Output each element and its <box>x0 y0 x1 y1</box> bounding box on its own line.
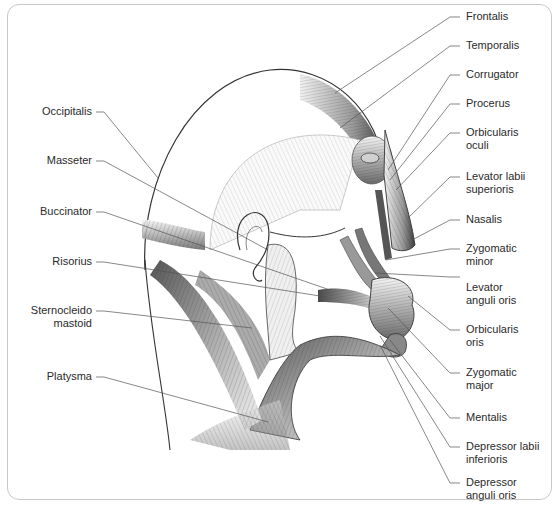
label-levator-labii-superioris: Levator labiisuperioris <box>466 170 525 196</box>
label-depressor-anguli-oris: Depressoranguli oris <box>466 476 517 502</box>
label-occipitalis: Occipitalis <box>42 105 92 118</box>
label-corrugator: Corrugator <box>466 68 519 81</box>
label-mentalis: Mentalis <box>466 411 507 424</box>
label-nasalis: Nasalis <box>466 213 502 226</box>
label-procerus: Procerus <box>466 97 510 110</box>
label-masseter: Masseter <box>47 154 92 167</box>
label-zygomatic-minor: Zygomaticminor <box>466 242 517 268</box>
label-orbicularis-oris: Orbicularisoris <box>466 323 519 349</box>
label-sternocleidomastoid: Sternocleidomastoid <box>31 304 92 330</box>
label-depressor-labii-inferioris: Depressor labiiinferioris <box>466 440 539 466</box>
label-risorius: Risorius <box>52 255 92 268</box>
label-buccinator: Buccinator <box>40 205 92 218</box>
label-temporalis: Temporalis <box>466 39 519 52</box>
label-orbicularis-oculi: Orbicularisoculi <box>466 126 519 152</box>
label-levator-anguli-oris: Levatoranguli oris <box>466 281 516 307</box>
label-zygomatic-major: Zygomaticmajor <box>466 366 517 392</box>
label-frontalis: Frontalis <box>466 10 508 23</box>
label-platysma: Platysma <box>47 370 92 383</box>
